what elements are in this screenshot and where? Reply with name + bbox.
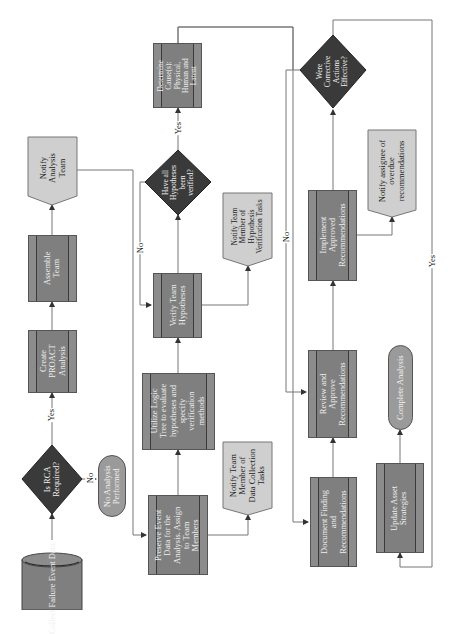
is-rca-required: Is RCARequired? xyxy=(22,445,82,514)
overdue-line1: Notify assignee of xyxy=(377,140,387,202)
notify-analysis-line3: Team xyxy=(56,159,66,178)
preserve-label: Preserve EventData for theAnalysis. Assi… xyxy=(155,506,202,563)
preserve-event-data: Preserve EventData for theAnalysis. Assi… xyxy=(148,495,208,575)
notify-data-line2: Member of xyxy=(237,457,247,495)
document-line3: Recommendations xyxy=(337,490,347,553)
is-rca-label: Is RCARequired? xyxy=(43,462,62,497)
edge-label-rca-no: No xyxy=(85,472,95,484)
no-analysis-performed: No AnalysisPerformed xyxy=(98,455,126,517)
verify-team-hypotheses: Verify TeamHypotheses xyxy=(153,273,202,338)
document-label: Document FindingandRecommendations xyxy=(319,490,347,554)
collect-failure-event-data: Collect Failure Event Data xyxy=(22,568,82,610)
overdue-line3: recommendations xyxy=(396,141,406,201)
complete-label: Complete Analysis xyxy=(396,355,405,419)
review-approve-recommendations: Review andApproveRecommendations xyxy=(308,350,357,438)
have-all-label: Have allHypothesesbeenverified? xyxy=(162,165,195,200)
overdue-line2: overdue xyxy=(386,157,396,184)
assemble-line1: Assemble xyxy=(42,252,52,286)
notify-data-line4: Tasks xyxy=(256,466,266,485)
notify-analysis-line2: Analysis xyxy=(47,153,57,183)
review-line3: Recommendations xyxy=(336,362,346,425)
were-effective-label: WereCorrectiveActionsEffective? xyxy=(317,56,350,88)
implement-line3: Recommendations xyxy=(336,204,346,267)
notify-data-line1: Notify Team xyxy=(228,455,238,498)
preserve-line5: Members xyxy=(191,519,201,551)
notify-data-collection: Notify TeamMember ofData CollectionTasks xyxy=(223,442,272,510)
collect-label: Collect Failure Event Data xyxy=(47,544,56,634)
no-analysis-label: No AnalysisPerformed xyxy=(103,465,122,507)
notify-analysis-line1: Notify xyxy=(37,157,47,179)
document-line2: and xyxy=(328,516,338,528)
notify-data-line3: Data Collection xyxy=(247,449,257,503)
document-line1: Document Finding xyxy=(318,490,328,554)
have-all-line1: Have all xyxy=(161,170,170,195)
assemble-team: AssembleTeam xyxy=(28,235,77,302)
determine-causes: DetermineCause(s):Physical,Human andLate… xyxy=(153,43,202,108)
create-proact-analysis: CreatePROACTAnalysis xyxy=(28,330,77,393)
update-asset-strategies: Update AssetStrategies xyxy=(376,463,424,553)
logic-line6: methods xyxy=(196,397,206,426)
edge-label-hyp-yes: Yes xyxy=(173,121,183,135)
notify-hypothesis-verification: Notify TeamMember ofHypothesisVerificati… xyxy=(223,193,272,260)
create-line2: PROACT xyxy=(47,345,57,379)
edge-label-effective-no: No xyxy=(281,231,291,243)
update-line2: Strategies xyxy=(399,491,409,525)
notify-overdue-recommendations: Notify assignee ofoverduerecommendations xyxy=(368,130,416,212)
have-all-hypotheses-verified: Have allHypothesesbeenverified? xyxy=(145,150,211,215)
assemble-line2: Team xyxy=(52,259,62,278)
create-proact-label: CreatePROACTAnalysis xyxy=(38,345,66,379)
complete-analysis: Complete Analysis xyxy=(388,345,413,430)
implement-recommendations: ImplementApprovedRecommendations xyxy=(308,190,357,281)
verify-label: Verify TeamHypotheses xyxy=(168,285,187,327)
were-corrective-actions-effective: WereCorrectiveActionsEffective? xyxy=(300,35,366,108)
review-label: Review andApproveRecommendations xyxy=(318,362,346,425)
verify-line2: Hypotheses xyxy=(177,286,187,326)
is-rca-line1: Is RCA xyxy=(42,467,52,493)
create-line1: Create xyxy=(37,350,47,372)
edge-label-hyp-no: No xyxy=(135,242,145,254)
update-label: Update AssetStrategies xyxy=(391,485,410,530)
assemble-label: AssembleTeam xyxy=(43,252,62,286)
effective-line4: Effective? xyxy=(340,56,349,87)
edge-label-effective-yes: Yes xyxy=(427,254,437,268)
create-line3: Analysis xyxy=(56,347,66,377)
determine-line5: Latent xyxy=(189,66,198,85)
have-all-line3: been xyxy=(177,175,186,189)
determine-label: DetermineCause(s):Physical,Human andLate… xyxy=(157,58,198,93)
notify-data-label: Notify TeamMember ofData CollectionTasks xyxy=(229,449,266,503)
have-all-line4: verified? xyxy=(185,169,194,196)
no-analysis-line2: Performed xyxy=(111,468,121,504)
have-all-line2: Hypotheses xyxy=(169,165,178,200)
notify-hyp-line4: Verification Tasks xyxy=(255,199,264,253)
edge-label-rca-yes: Yes xyxy=(46,408,56,422)
logic-tree-label: Utilize LogicTree to evaluatehypotheses … xyxy=(150,384,206,438)
document-findings: Document FindingandRecommendations xyxy=(310,477,357,567)
notify-analysis-team: NotifyAnalysisTeam xyxy=(28,137,77,199)
notify-overdue-label: Notify assignee ofoverduerecommendations xyxy=(378,140,406,202)
implement-label: ImplementApprovedRecommendations xyxy=(318,204,346,267)
notify-analysis-label: NotifyAnalysisTeam xyxy=(38,153,66,183)
notify-hyp-label: Notify TeamMember ofHypothesisVerificati… xyxy=(231,199,264,253)
is-rca-line2: Required? xyxy=(51,462,61,497)
utilize-logic-tree: Utilize LogicTree to evaluatehypotheses … xyxy=(142,373,215,450)
verify-line1: Verify Team xyxy=(167,285,177,327)
